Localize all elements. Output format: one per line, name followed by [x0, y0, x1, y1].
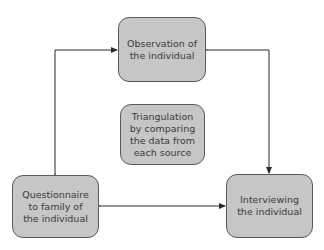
node-interviewing: Interviewing the individual	[226, 174, 313, 238]
node-questionnaire-label: Questionnaire to family of the individua…	[22, 189, 89, 225]
node-questionnaire: Questionnaire to family of the individua…	[12, 175, 99, 238]
node-interviewing-label: Interviewing the individual	[237, 194, 302, 218]
node-observation: Observation of the individual	[118, 17, 206, 82]
node-triangulation: Triangulation by comparing the data from…	[120, 104, 205, 165]
node-triangulation-label: Triangulation by comparing the data from…	[130, 111, 195, 159]
edge-questionnaire-observation	[55, 50, 117, 174]
edge-observation-interviewing	[207, 50, 269, 173]
triangulation-diagram: Observation of the individual Triangulat…	[0, 0, 324, 250]
node-observation-label: Observation of the individual	[127, 38, 197, 62]
